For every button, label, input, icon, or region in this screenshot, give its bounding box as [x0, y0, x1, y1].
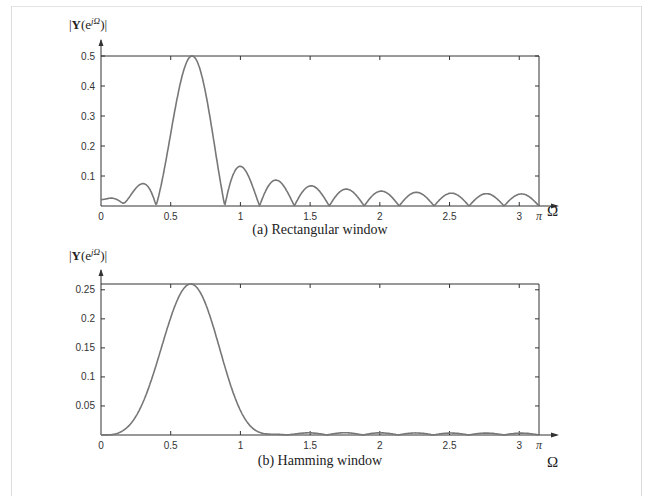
x-tick-label: 1 — [238, 211, 244, 222]
y-tick-label: 0.2 — [81, 313, 95, 324]
axes-b — [99, 269, 560, 438]
x-tick-label: π — [536, 438, 543, 452]
x-tick-label: 3 — [516, 440, 522, 451]
spectrum-curve-a — [101, 56, 539, 206]
x-tick-label: 2.5 — [443, 440, 457, 451]
x-tick-label: 1.5 — [303, 211, 317, 222]
y-tick-label: 0.2 — [81, 141, 95, 152]
x-tick-label: 0 — [98, 440, 104, 451]
y-axis-label-a: |Y(ejΩ)| — [69, 16, 107, 32]
y-tick-label: 0.05 — [76, 400, 96, 411]
x-tick-labels-a: 00.511.522.53π — [98, 209, 543, 223]
y-tick-label: 0.15 — [76, 342, 96, 353]
x-tick-label: 2 — [377, 440, 383, 451]
y-tick-label: 0.3 — [81, 111, 95, 122]
x-tick-labels-b: 00.511.522.53π — [98, 438, 543, 452]
x-tick-label: 0.5 — [164, 440, 178, 451]
x-tick-label: 2 — [377, 211, 383, 222]
y-tick-label: 0.5 — [81, 51, 95, 62]
chart-rectangular-window: |Y(ejΩ)| 00.511.522.53π 0.10.20.30.40.5 … — [69, 16, 559, 238]
caption-a: (a) Rectangular window — [252, 222, 388, 238]
axes-a — [99, 39, 560, 209]
x-tick-label: 1.5 — [303, 440, 317, 451]
y-axis-label-b: |Y(ejΩ)| — [69, 247, 107, 263]
x-tick-label: 2.5 — [443, 211, 457, 222]
y-tick-label: 0.25 — [76, 284, 96, 295]
omega-axis-label-b: Ω — [547, 454, 558, 470]
x-tick-label: 3 — [516, 211, 522, 222]
x-tick-label: 0 — [98, 211, 104, 222]
spectrum-curve-b — [101, 284, 539, 435]
chart-hamming-window: |Y(ejΩ)| 00.511.522.53π 0.050.10.150.20.… — [69, 247, 559, 470]
x-tick-label: π — [536, 209, 543, 223]
y-tick-label: 0.1 — [81, 171, 95, 182]
caption-b: (b) Hamming window — [258, 453, 383, 469]
y-tick-label: 0.4 — [81, 81, 95, 92]
y-tick-labels-b: 0.050.10.150.20.25 — [76, 284, 96, 411]
omega-axis-label-a: Ω — [547, 203, 558, 219]
y-tick-labels-a: 0.10.20.30.40.5 — [81, 51, 95, 182]
y-tick-label: 0.1 — [81, 371, 95, 382]
x-tick-label: 1 — [238, 440, 244, 451]
x-tick-label: 0.5 — [164, 211, 178, 222]
